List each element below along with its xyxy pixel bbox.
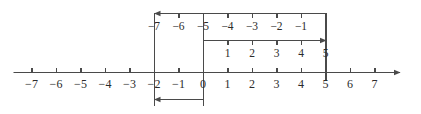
- axis-label--3: −3: [123, 78, 136, 90]
- top-scale-label--1: −6: [172, 21, 184, 33]
- top-scale-label-0: −5: [197, 21, 209, 33]
- axis-label-7: 7: [372, 78, 378, 90]
- axis-label-6: 6: [347, 78, 353, 90]
- axis-label-3: 3: [274, 78, 280, 90]
- axis-label--6: −6: [50, 78, 63, 90]
- axis-label-0: 0: [200, 78, 206, 90]
- axis-label--2: −2: [148, 78, 161, 90]
- middle-scale-label-1: 1: [225, 48, 231, 60]
- axis-label--7: −7: [25, 78, 38, 90]
- axis-label-4: 4: [298, 78, 304, 90]
- axis-label--5: −5: [74, 78, 87, 90]
- axis-label--4: −4: [99, 78, 112, 90]
- middle-scale-label-3: 3: [274, 48, 280, 60]
- top-scale-label--2: −7: [148, 21, 160, 33]
- middle-scale-label-4: 4: [298, 48, 304, 60]
- axis-label--1: −1: [172, 78, 185, 90]
- top-scale-label-3: −2: [270, 21, 282, 33]
- middle-scale-label-2: 2: [249, 48, 255, 60]
- number-line-figure: −7−6−5−4−3−2−101234567−7−6−5−4−3−2−11234…: [0, 0, 421, 114]
- top-scale-label-2: −3: [246, 21, 258, 33]
- axis-label-2: 2: [249, 78, 255, 90]
- top-scale-label-4: −1: [295, 21, 307, 33]
- axis-label-1: 1: [225, 78, 231, 90]
- number-line-graphics: [0, 0, 421, 114]
- top-scale-label-1: −4: [221, 21, 233, 33]
- axis-label-5: 5: [323, 78, 329, 90]
- middle-scale-label-5: 5: [323, 48, 329, 60]
